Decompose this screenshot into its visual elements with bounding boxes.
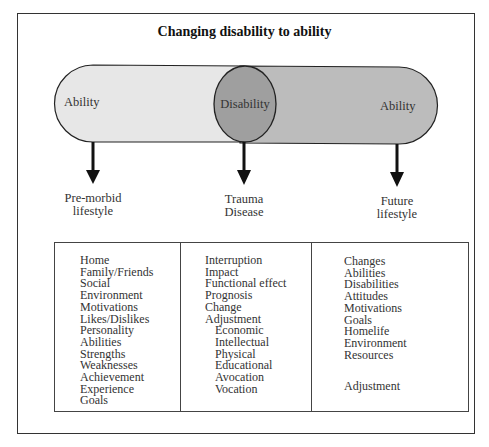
trauma-disease-label: Trauma Disease — [214, 193, 274, 219]
arrow-future — [390, 144, 404, 187]
list-item: Vocation — [205, 384, 286, 396]
arrow-trauma — [237, 142, 251, 185]
premorbid-list: HomeFamily/FriendsSocialEnvironmentMotiv… — [80, 255, 153, 407]
future-lifestyle-label: Future lifestyle — [367, 195, 427, 221]
future-column: ChangesAbilitiesDisabilitiesAttitudesMot… — [311, 243, 468, 411]
list-item: Goals — [80, 395, 153, 407]
list-item: Resources — [344, 350, 407, 362]
future-adjustment-label: Adjustment — [344, 379, 400, 394]
future-list: ChangesAbilitiesDisabilitiesAttitudesMot… — [344, 256, 407, 361]
attributes-table: HomeFamily/FriendsSocialEnvironmentMotiv… — [54, 242, 469, 412]
premorbid-lifestyle-label: Pre-morbid lifestyle — [55, 192, 131, 218]
disability-label: Disability — [217, 98, 273, 111]
arrow-premorbid — [86, 142, 100, 184]
trauma-list: InterruptionImpactFunctional effectProgn… — [205, 255, 286, 395]
trauma-column: InterruptionImpactFunctional effectProgn… — [180, 243, 311, 411]
left-ability-label: Ability — [64, 96, 99, 109]
right-ability-label: Ability — [380, 100, 415, 113]
premorbid-column: HomeFamily/FriendsSocialEnvironmentMotiv… — [55, 243, 180, 411]
